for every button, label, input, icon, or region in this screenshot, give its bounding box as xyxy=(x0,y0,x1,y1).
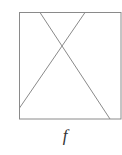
square-outline xyxy=(20,13,122,120)
figure-label: f xyxy=(0,126,122,146)
diagonal-line-2 xyxy=(20,13,86,109)
diagonal-line-1 xyxy=(40,13,110,120)
